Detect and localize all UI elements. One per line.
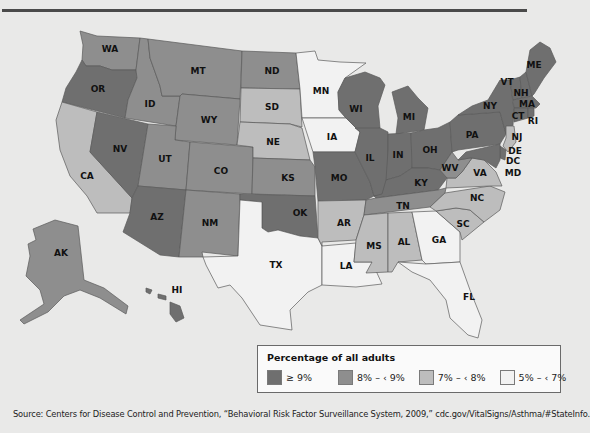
label-AZ: AZ — [150, 212, 164, 222]
label-CT: CT — [512, 111, 526, 121]
label-MD: MD — [505, 168, 521, 178]
label-IN: IN — [393, 150, 404, 160]
label-OK: OK — [293, 208, 309, 218]
legend-items: ≥ 9% 8% – ‹ 9% 7% – ‹ 8% 5% – ‹ 7% — [267, 370, 580, 385]
label-WA: WA — [102, 44, 119, 54]
label-WY: WY — [201, 115, 218, 125]
state-HI-2[interactable] — [158, 294, 166, 300]
label-MS: MS — [366, 241, 381, 251]
legend-swatch — [419, 370, 434, 385]
label-MA: MA — [519, 99, 535, 109]
legend-item-9-plus: ≥ 9% — [267, 370, 312, 385]
label-WV: WV — [442, 163, 459, 173]
label-HI: HI — [172, 285, 183, 295]
label-NE: NE — [266, 137, 280, 147]
label-VA: VA — [473, 168, 486, 178]
label-VT: VT — [500, 77, 514, 87]
label-DE: DE — [508, 146, 522, 156]
legend-label: 5% – ‹ 7% — [519, 372, 567, 383]
label-MT: MT — [190, 66, 206, 76]
label-KY: KY — [414, 178, 428, 188]
label-ME: ME — [526, 60, 541, 70]
label-RI: RI — [528, 116, 538, 126]
label-SC: SC — [456, 219, 469, 229]
label-SD: SD — [265, 102, 279, 112]
legend-title: Percentage of all adults — [267, 352, 395, 363]
legend-label: ≥ 9% — [286, 372, 312, 383]
label-NM: NM — [202, 218, 219, 228]
label-GA: GA — [432, 235, 446, 245]
label-PA: PA — [466, 130, 479, 140]
label-NH: NH — [513, 88, 528, 98]
legend-swatch — [267, 370, 282, 385]
legend-item-7-8: 7% – ‹ 8% — [419, 370, 486, 385]
legend-label: 8% – ‹ 9% — [357, 372, 405, 383]
label-NJ: NJ — [512, 132, 523, 142]
source-citation: Source: Centers for Disease Control and … — [13, 409, 590, 419]
label-FL: FL — [463, 292, 475, 302]
label-CA: CA — [80, 171, 94, 181]
label-CO: CO — [214, 166, 229, 176]
legend-label: 7% – ‹ 8% — [438, 372, 486, 383]
label-MN: MN — [313, 86, 330, 96]
legend-item-5-7: 5% – ‹ 7% — [500, 370, 567, 385]
label-DC: DC — [506, 156, 520, 166]
label-OR: OR — [91, 84, 106, 94]
label-IL: IL — [365, 153, 374, 163]
state-HI[interactable] — [146, 288, 152, 294]
label-AL: AL — [398, 237, 411, 247]
state-MI[interactable] — [392, 86, 428, 134]
label-TX: TX — [269, 260, 282, 270]
label-UT: UT — [158, 154, 172, 164]
label-WI: WI — [349, 104, 362, 114]
legend-swatch — [338, 370, 353, 385]
label-AK: AK — [54, 248, 69, 258]
label-LA: LA — [340, 261, 353, 271]
label-AR: AR — [337, 218, 351, 228]
label-TN: TN — [396, 201, 410, 211]
label-NV: NV — [113, 144, 128, 154]
label-NY: NY — [483, 101, 498, 111]
label-NC: NC — [470, 193, 485, 203]
label-MI: MI — [403, 112, 415, 122]
state-HI-3[interactable] — [170, 302, 184, 322]
label-ID: ID — [145, 99, 156, 109]
state-AZ[interactable] — [123, 186, 186, 257]
label-MO: MO — [331, 173, 348, 183]
label-ND: ND — [264, 66, 279, 76]
label-IA: IA — [327, 132, 337, 142]
legend-item-8-9: 8% – ‹ 9% — [338, 370, 405, 385]
legend: Percentage of all adults ≥ 9% 8% – ‹ 9% … — [257, 345, 561, 393]
legend-swatch — [500, 370, 515, 385]
state-AK[interactable] — [20, 220, 128, 324]
label-OH: OH — [422, 145, 437, 155]
label-KS: KS — [281, 173, 294, 183]
